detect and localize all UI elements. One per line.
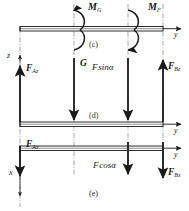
- axis-label-y-mid: y: [174, 127, 178, 135]
- axis-label-x: x: [9, 169, 13, 177]
- caption-d: (d): [89, 112, 98, 120]
- force-f-bx-label: FBx: [168, 168, 181, 178]
- axis-label-y-top: y: [174, 31, 178, 39]
- moment-mf-label: MF: [148, 2, 161, 12]
- moment-mf-arrowhead: [128, 47, 138, 55]
- panel-d-shaft: [20, 122, 163, 127]
- figure-canvas: MG MF y (c) z FAz G F sinα FBz y (d) FAx…: [0, 0, 189, 211]
- axis-label-z: z: [7, 52, 10, 60]
- diagram-svg: [0, 0, 189, 211]
- station-centerlines: [20, 4, 163, 207]
- panel-c-shaft: [20, 27, 163, 32]
- panel-e-shaft: [20, 146, 163, 151]
- caption-e: (e): [89, 190, 98, 198]
- moment-mg-label: MG: [88, 2, 101, 12]
- force-f-ax-label: FAx: [26, 140, 39, 150]
- force-f-bz-label: FBz: [168, 62, 180, 72]
- force-fsina-label: F sinα: [92, 63, 113, 72]
- force-g-label: G: [80, 59, 87, 69]
- force-f-az-label: FAz: [26, 64, 38, 74]
- caption-c: (c): [89, 41, 98, 49]
- axis-label-y-bot: y: [174, 151, 178, 159]
- force-fcosa-label: F cosα: [93, 161, 116, 170]
